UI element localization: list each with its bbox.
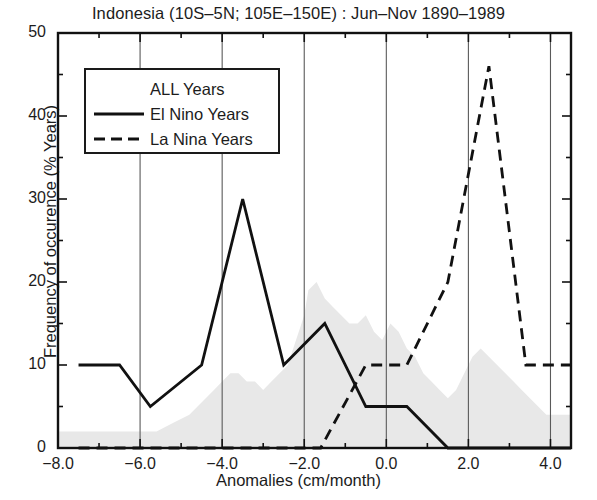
legend-entry-la-nina: La Nina Years [86, 126, 282, 152]
legend-entry-el-nino: El Nino Years [86, 101, 282, 127]
legend-entry-all-years: ALL Years [86, 76, 282, 102]
legend-label-la-nina: La Nina Years [150, 126, 253, 152]
all-years-area [58, 282, 571, 448]
chart-legend: ALL Years El Nino Years La Nina Years [84, 68, 280, 154]
solid-line-icon [86, 101, 150, 127]
x-tick-label: 4.0 [510, 455, 590, 473]
y-tick-label: 20 [0, 272, 46, 290]
chart-figure: Indonesia (10S–5N; 105E–150E) : Jun–Nov … [0, 0, 597, 500]
legend-marker-none [86, 76, 150, 102]
y-tick-label: 10 [0, 355, 46, 373]
x-tick-label: −8.0 [18, 455, 98, 473]
dashed-line-icon [86, 126, 150, 152]
y-tick-label: 0 [0, 438, 46, 456]
x-tick-label: 0.0 [346, 455, 426, 473]
legend-label-all-years: ALL Years [150, 76, 225, 102]
x-tick-label: −6.0 [100, 455, 180, 473]
y-tick-label: 50 [0, 23, 46, 41]
legend-label-el-nino: El Nino Years [150, 101, 249, 127]
x-tick-label: −4.0 [182, 455, 262, 473]
y-tick-label: 40 [0, 106, 46, 124]
x-tick-label: −2.0 [264, 455, 344, 473]
y-tick-label: 30 [0, 189, 46, 207]
x-tick-label: 2.0 [428, 455, 508, 473]
